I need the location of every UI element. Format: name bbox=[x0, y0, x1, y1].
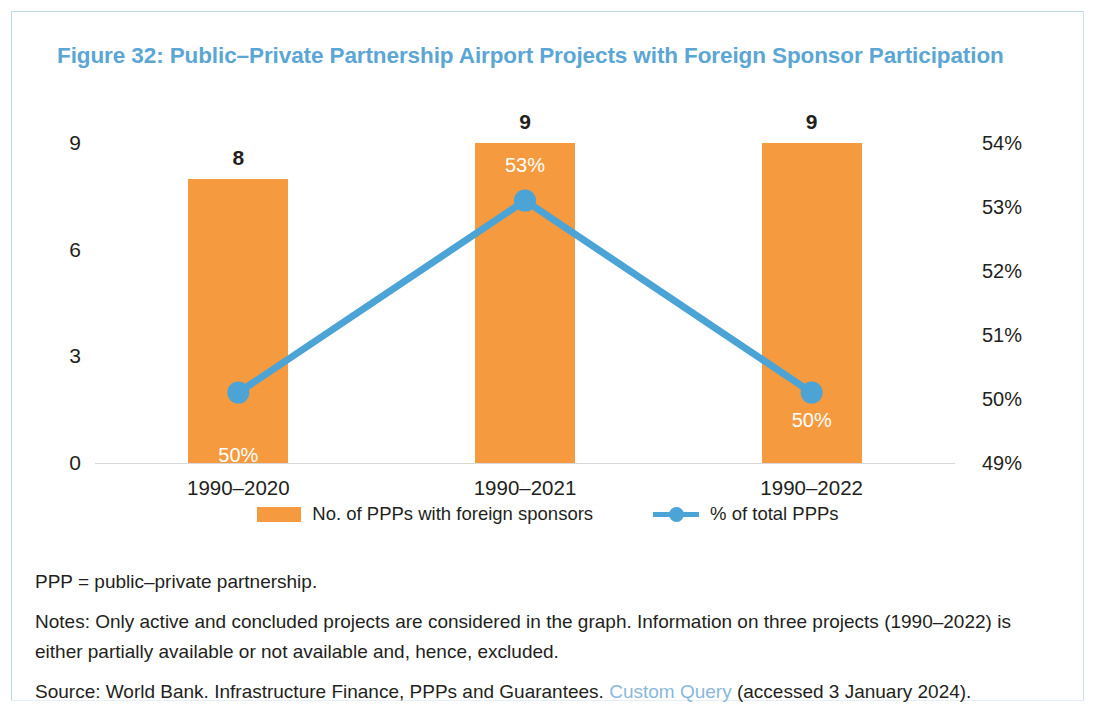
legend-item-bars: No. of PPPs with foreign sponsors bbox=[257, 503, 593, 525]
right-axis-tick-54: 54% bbox=[982, 132, 1022, 155]
line-point-0 bbox=[227, 382, 249, 404]
percent-line-series bbox=[95, 143, 955, 463]
right-axis-tick-50: 50% bbox=[982, 388, 1022, 411]
legend-line-marker-icon bbox=[653, 506, 699, 522]
figure-container: Figure 32: Public–Private Partnership Ai… bbox=[0, 0, 1096, 713]
custom-query-link[interactable]: Custom Query bbox=[609, 681, 731, 702]
line-point-1 bbox=[514, 190, 536, 212]
left-axis-tick-0: 0 bbox=[69, 451, 81, 475]
chart-plot-area: 0 3 6 9 49% 50% 51% 52% 53% 54% 8 50% 9 … bbox=[95, 143, 955, 463]
left-axis-tick-9: 9 bbox=[69, 131, 81, 155]
abbreviation-note: PPP = public–private partnership. bbox=[35, 567, 1061, 596]
source-line: Source: World Bank. Infrastructure Finan… bbox=[35, 677, 1061, 706]
right-axis-tick-53: 53% bbox=[982, 196, 1022, 219]
x-axis-label-1: 1990–2021 bbox=[474, 476, 577, 500]
x-axis-line bbox=[95, 463, 955, 465]
line-point-2 bbox=[801, 382, 823, 404]
source-suffix: (accessed 3 January 2024). bbox=[732, 681, 972, 702]
right-axis-tick-52: 52% bbox=[982, 260, 1022, 283]
bar-value-label-2: 9 bbox=[806, 110, 818, 134]
legend-label-bars: No. of PPPs with foreign sponsors bbox=[312, 503, 593, 525]
chart-legend: No. of PPPs with foreign sponsors % of t… bbox=[0, 503, 1096, 525]
source-prefix: Source: World Bank. Infrastructure Finan… bbox=[35, 681, 609, 702]
left-axis-tick-3: 3 bbox=[69, 344, 81, 368]
legend-label-line: % of total PPPs bbox=[710, 503, 839, 525]
x-axis-label-0: 1990–2020 bbox=[187, 476, 290, 500]
bar-value-label-1: 9 bbox=[519, 110, 531, 134]
left-axis-tick-6: 6 bbox=[69, 238, 81, 262]
x-axis-label-2: 1990–2022 bbox=[760, 476, 863, 500]
right-axis-tick-51: 51% bbox=[982, 324, 1022, 347]
right-axis-tick-49: 49% bbox=[982, 452, 1022, 475]
legend-bar-swatch-icon bbox=[257, 507, 301, 522]
legend-item-line: % of total PPPs bbox=[653, 503, 839, 525]
figure-title: Figure 32: Public–Private Partnership Ai… bbox=[57, 43, 1057, 69]
figure-notes: PPP = public–private partnership. Notes:… bbox=[35, 567, 1061, 707]
notes-text: Notes: Only active and concluded project… bbox=[35, 607, 1061, 666]
